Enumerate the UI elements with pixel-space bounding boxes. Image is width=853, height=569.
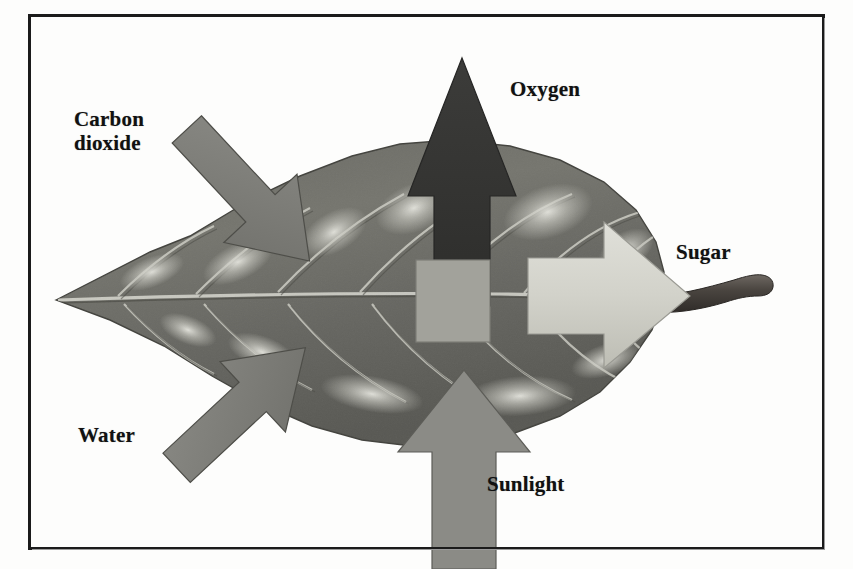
figure-canvas: Carbon dioxide Oxygen Sugar Water Sunlig… [0, 0, 853, 569]
label-sugar: Sugar [676, 241, 731, 265]
figure-border [28, 14, 825, 550]
label-sunlight: Sunlight [487, 473, 564, 497]
label-oxygen: Oxygen [510, 78, 580, 102]
label-water: Water [78, 424, 135, 448]
label-carbon-dioxide: Carbon dioxide [74, 108, 144, 155]
